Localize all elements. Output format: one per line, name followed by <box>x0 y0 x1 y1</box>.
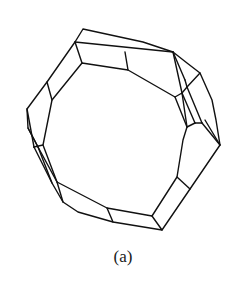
ring-drawing <box>0 0 246 285</box>
figure-caption: (a) <box>0 247 246 267</box>
facet-edge <box>187 87 202 123</box>
facet-edge <box>185 80 187 87</box>
facet-edge <box>187 123 195 127</box>
facet-edge <box>38 147 57 182</box>
facet-edge <box>125 52 128 70</box>
outer-outline <box>27 29 220 230</box>
facet-edge <box>177 177 190 189</box>
inner-outline <box>43 63 187 216</box>
polyhedral-ring-figure: (a) <box>0 0 246 285</box>
facet-edge <box>182 87 187 93</box>
facet-edge <box>75 42 82 63</box>
facet-edge <box>34 147 52 183</box>
facet-edge <box>187 73 200 87</box>
facet-edge <box>152 216 162 230</box>
facet-edge <box>47 82 52 100</box>
